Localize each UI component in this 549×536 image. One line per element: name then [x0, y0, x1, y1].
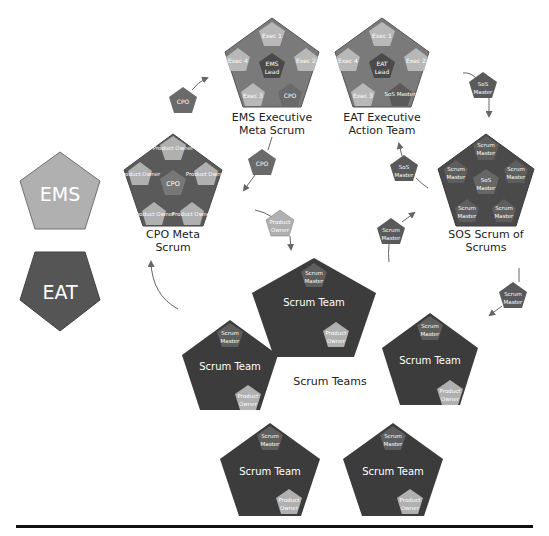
team4-po-line2: Owner	[280, 505, 299, 511]
eat-caption-line1: EAT Executive	[343, 111, 421, 124]
scrum-team-1: Scrum Master Scrum Team Product Owner	[252, 258, 376, 357]
eat-member-1: Exec 1	[372, 32, 392, 39]
team3-sm-line2: Master	[421, 331, 441, 337]
sos-member-4-l1: Scrum	[458, 205, 476, 211]
ems-caption-line1: EMS Executive	[232, 111, 313, 124]
cpo-member-4: Product Owner	[134, 211, 175, 217]
team2-po-line1: Product	[238, 393, 260, 399]
cpo-member-3: Product Owner	[172, 211, 213, 217]
ems-member-4: Exec 3	[243, 92, 263, 99]
cpo-member-2: Product Owner	[186, 171, 227, 177]
sos-caption-line2: Scrums	[466, 241, 507, 254]
cpo-caption-line1: CPO Meta	[146, 228, 200, 241]
team1-po-line1: Product	[326, 330, 348, 336]
sos-member-5-l1: Scrum	[447, 166, 465, 172]
scrum-teams-caption: Scrum Teams	[293, 375, 367, 388]
team4-po-line1: Product	[279, 497, 301, 503]
connector-eat-sos-line1: SoS	[478, 81, 489, 87]
scrum-team-2: Scrum Master Scrum Team Product Owner	[182, 320, 278, 410]
cpo-center: CPO	[166, 180, 180, 188]
team5-po-line2: Owner	[401, 505, 420, 511]
eat-lead-line2: Lead	[375, 68, 390, 75]
team5-po-line1: Product	[400, 497, 422, 503]
sos-scrum-of-scrums: Scrum Master Scrum Master Scrum Master S…	[438, 134, 534, 254]
connector-sm-sos-line1: Scrum	[382, 227, 400, 233]
connector-ems-cpo-down-label: CPO	[256, 160, 269, 167]
scrum-team-3: Scrum Master Scrum Team Product Owner	[382, 313, 478, 405]
connector-eat-sos-line2: Master	[474, 89, 494, 95]
team5-sm-line1: Scrum	[384, 433, 402, 439]
ems-member-5: Exec 4	[228, 57, 248, 64]
connector-cpo-to-ems-label: CPO	[177, 98, 190, 105]
team5-sm-line2: Master	[384, 441, 404, 447]
connector-eat-sos-down: SoS Master	[463, 72, 497, 116]
team1-label: Scrum Team	[283, 297, 345, 308]
sos-caption-line1: SOS Scrum of	[448, 228, 525, 241]
connector-sos-to-eat: SoS Master	[390, 144, 428, 188]
ems-caption-line2: Meta Scrum	[239, 124, 305, 137]
team2-sm-line1: Scrum	[221, 330, 239, 336]
connector-sm-right-line2: Master	[504, 299, 524, 305]
eat-member-4: Exec 3	[353, 92, 373, 99]
legend-ems-pentagon: EMS	[20, 152, 100, 229]
team4-sm-line1: Scrum	[261, 433, 279, 439]
legend-eat-pentagon: EAT	[20, 252, 100, 331]
cpo-member-5: Product Owner	[120, 171, 161, 177]
team5-label: Scrum Team	[362, 466, 424, 477]
connector-sos-eat-line1: SoS	[399, 164, 410, 170]
sos-member-4-l2: Master	[458, 213, 478, 219]
sos-center-line1: SoS	[481, 177, 492, 183]
connector-ems-cpo-down: CPO	[244, 137, 276, 190]
ems-member-1: Exec 1	[262, 32, 282, 39]
arrow-teams-to-cpo	[151, 262, 178, 309]
sos-member-3-l1: Scrum	[495, 205, 513, 211]
sos-member-5-l2: Master	[447, 174, 467, 180]
bottom-rule	[16, 525, 533, 528]
connector-po-line2: Owner	[271, 227, 290, 233]
eat-member-2: Exec 2	[406, 57, 426, 64]
team3-label: Scrum Team	[399, 355, 461, 366]
team2-label: Scrum Team	[199, 361, 261, 372]
connector-sm-right-line1: Scrum	[504, 291, 522, 297]
connector-sm-right: Scrum Master	[490, 268, 527, 315]
sos-member-1-l2: Master	[477, 150, 497, 156]
scrum-team-4: Scrum Master Scrum Team Product Owner	[220, 423, 320, 516]
eat-executive-action-team: Exec 1 Exec 2 SoS Master Exec 3 Exec 4 E…	[335, 18, 429, 137]
ems-member-3: CPO	[284, 92, 297, 99]
sos-member-2-l2: Master	[507, 174, 527, 180]
eat-caption-line2: Action Team	[348, 124, 415, 137]
cpo-caption-line2: Scrum	[155, 241, 190, 254]
legend-eat-label: EAT	[42, 281, 78, 303]
sos-member-3-l2: Master	[495, 213, 515, 219]
connector-sos-eat-line2: Master	[395, 172, 415, 178]
eat-lead-line1: EAT	[376, 60, 387, 67]
connector-po-line1: Product	[270, 219, 292, 225]
team1-sm-line1: Scrum	[305, 270, 323, 276]
eat-member-3: SoS Master	[385, 91, 417, 97]
connector-sm-sos-line2: Master	[382, 235, 402, 241]
team2-po-line2: Owner	[239, 401, 258, 407]
scrum-team-5: Scrum Master Scrum Team Product Owner	[343, 423, 443, 516]
eat-member-5: Exec 4	[338, 57, 358, 64]
team3-sm-line1: Scrum	[421, 323, 439, 329]
team4-label: Scrum Team	[239, 466, 301, 477]
legend-ems-label: EMS	[40, 183, 80, 205]
scrum-at-scale-diagram: EMS EAT Exec 1 Exec 2 CPO Exec 3 Exec 4 …	[0, 0, 549, 536]
team4-sm-line2: Master	[261, 441, 281, 447]
sos-center-line2: Master	[477, 185, 497, 191]
ems-member-2: Exec 2	[296, 57, 316, 64]
team3-po-line1: Product	[440, 388, 462, 394]
connector-sm-to-sos: Scrum Master	[377, 213, 414, 262]
ems-executive-meta-scrum: Exec 1 Exec 2 CPO Exec 3 Exec 4 EMS Lead…	[225, 18, 319, 137]
cpo-member-1: Product Owner	[153, 145, 194, 151]
ems-lead-line2: Lead	[265, 68, 280, 75]
ems-lead-line1: EMS	[266, 60, 279, 67]
sos-member-1-l1: Scrum	[477, 142, 495, 148]
team1-po-line2: Owner	[327, 338, 346, 344]
connector-po-to-teams: Product Owner	[255, 210, 294, 249]
team2-sm-line2: Master	[221, 338, 241, 344]
team1-sm-line2: Master	[305, 278, 325, 284]
sos-member-2-l1: Scrum	[507, 166, 525, 172]
connector-cpo-to-ems: CPO	[169, 78, 207, 113]
cpo-meta-scrum: Product Owner Product Owner Product Owne…	[120, 134, 227, 254]
